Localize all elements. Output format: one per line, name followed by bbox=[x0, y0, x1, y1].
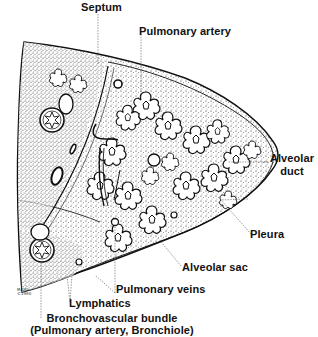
label-pulmonary-artery: Pulmonary artery bbox=[139, 26, 231, 37]
label-alveolar-duct-line2: duct bbox=[266, 166, 318, 177]
label-alveolar-sac: Alveolar sac bbox=[182, 262, 248, 273]
label-septum: Septum bbox=[81, 2, 122, 13]
label-pleura: Pleura bbox=[250, 229, 284, 240]
label-bronchovascular-bundle: Bronchovascular bundle (Pulmonary artery… bbox=[12, 313, 212, 336]
copyright-mark: MAYO ©1990 bbox=[17, 288, 31, 296]
alveolar-sac-leader bbox=[158, 238, 181, 266]
label-pulmonary-veins: Pulmonary veins bbox=[116, 284, 206, 295]
label-alveolar-duct-line1: Alveolar bbox=[266, 153, 318, 164]
label-bronchovascular-line1: Bronchovascular bundle bbox=[12, 313, 212, 324]
copyright-line2: ©1990 bbox=[17, 292, 31, 296]
label-lymphatics: Lymphatics bbox=[69, 298, 131, 309]
label-alveolar-duct: Alveolar duct bbox=[266, 153, 318, 177]
label-bronchovascular-line2: (Pulmonary artery, Bronchiole) bbox=[12, 325, 212, 336]
pulmonary-veins-leader-a bbox=[95, 275, 115, 293]
